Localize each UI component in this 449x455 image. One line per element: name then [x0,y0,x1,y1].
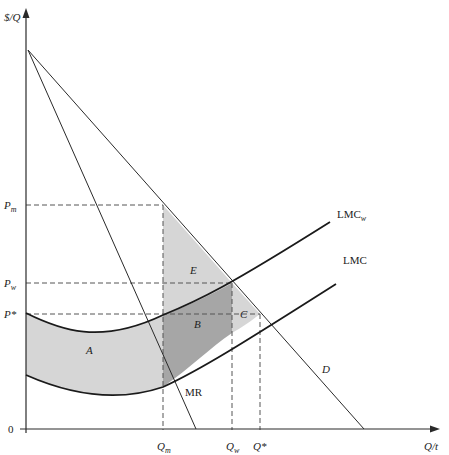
x-axis-arrow-icon [430,426,440,433]
pstar-label: P* [3,308,17,320]
lmc-label: LMC [343,254,367,266]
diagram-canvas: $/Q Q/t 0 Pm Pw P* Qm Qw Q* LMCw LMC MR … [0,0,449,455]
region-c-label: C [240,308,248,320]
region-e-label: E [189,264,197,276]
qstar-label: Q* [253,440,267,452]
lmcw-label: LMCw [337,208,367,223]
y-axis-label: $/Q [4,11,21,23]
origin-label: 0 [8,423,14,435]
pw-label: Pw [3,277,17,292]
region-b-label: B [194,318,201,330]
x-axis-label: Q/t [424,440,439,452]
qm-label: Qm [157,440,171,455]
pm-label: Pm [3,199,17,214]
mr-label: MR [185,386,203,398]
y-axis-arrow-icon [23,8,30,18]
region-a-label: A [85,344,93,356]
qw-label: Qw [226,440,240,455]
d-label: D [321,363,330,375]
